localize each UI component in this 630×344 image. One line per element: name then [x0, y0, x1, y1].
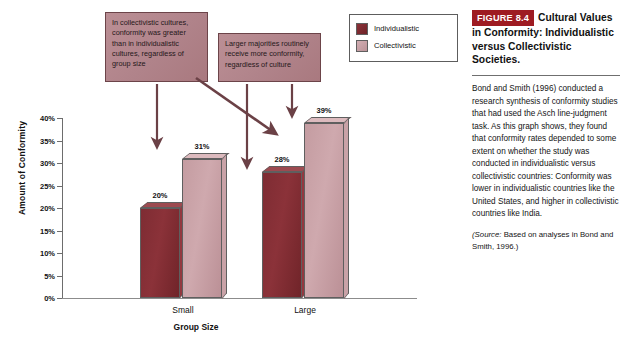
- bar-value-label: 28%: [274, 155, 289, 164]
- x-axis-line: [62, 298, 417, 299]
- figure-number-badge: FIGURE 8.4: [472, 10, 534, 26]
- y-tick: [57, 298, 62, 299]
- y-tick-label: 30%: [40, 159, 55, 168]
- legend-swatch-icon-collectivistic: [356, 40, 368, 52]
- y-tick: [57, 141, 62, 142]
- y-tick-label: 15%: [40, 226, 55, 235]
- bar-side-face: [344, 117, 349, 298]
- bar-face: [304, 123, 344, 299]
- legend-item-collectivistic: Collectivistic: [356, 37, 451, 54]
- y-tick-label: 20%: [40, 204, 55, 213]
- y-tick-label: 40%: [40, 114, 55, 123]
- bar-face: [182, 159, 222, 299]
- figure-8-4-root: Amount of Conformity 0%5%10%15%20%25%30%…: [0, 0, 630, 344]
- y-tick: [57, 163, 62, 164]
- y-tick-label: 5%: [44, 271, 55, 280]
- y-tick: [57, 208, 62, 209]
- legend-item-individualistic: Individualistic: [356, 20, 451, 37]
- figure-heading: FIGURE 8.4Cultural Values in Conformity:…: [472, 10, 620, 67]
- bar-value-label: 31%: [194, 142, 209, 151]
- figure-body-text: Bond and Smith (1996) conducted a resear…: [472, 83, 620, 220]
- y-tick-label: 0%: [44, 294, 55, 303]
- legend-label-collectivistic: Collectivistic: [374, 41, 416, 50]
- plot-area: 0%5%10%15%20%25%30%35%40% 20%31%28%39% S…: [62, 118, 392, 298]
- bar-value-label: 20%: [152, 191, 167, 200]
- y-axis-line: [62, 118, 63, 298]
- figure-source-note: (Source: Based on analyses in Bond and S…: [472, 229, 620, 252]
- x-category-label-small: Small: [172, 305, 193, 315]
- callout-collectivistic-greater: In collectivistic cultures, conformity w…: [105, 12, 208, 82]
- bar-face: [140, 208, 180, 298]
- y-tick-label: 35%: [40, 136, 55, 145]
- y-axis-title: Amount of Conformity: [17, 121, 27, 215]
- bar-individualistic-small: [140, 208, 180, 298]
- bar-collectivistic-large: [304, 123, 344, 299]
- y-tick: [57, 253, 62, 254]
- figure-source-prefix: (Source:: [472, 230, 501, 239]
- y-tick: [57, 186, 62, 187]
- bar-collectivistic-small: [182, 159, 222, 299]
- y-tick: [57, 276, 62, 277]
- bar-value-label: 39%: [316, 106, 331, 115]
- x-axis-title: Group Size: [174, 322, 219, 332]
- bar-individualistic-large: [262, 172, 302, 298]
- callout-larger-majorities: Larger majorities routinely receive more…: [218, 33, 321, 82]
- figure-divider: [472, 75, 620, 76]
- x-category-label-large: Large: [294, 305, 316, 315]
- legend-swatch-icon-individualistic: [356, 23, 368, 35]
- bar-face: [262, 172, 302, 298]
- y-tick: [57, 118, 62, 119]
- y-tick: [57, 231, 62, 232]
- bar-side-face: [222, 153, 227, 298]
- legend-label-individualistic: Individualistic: [374, 24, 419, 33]
- y-tick-label: 10%: [40, 249, 55, 258]
- y-tick-label: 25%: [40, 181, 55, 190]
- chart-legend: Individualistic Collectivistic: [349, 14, 458, 62]
- chart-panel: Amount of Conformity 0%5%10%15%20%25%30%…: [0, 0, 452, 344]
- figure-caption-panel: FIGURE 8.4Cultural Values in Conformity:…: [466, 0, 630, 344]
